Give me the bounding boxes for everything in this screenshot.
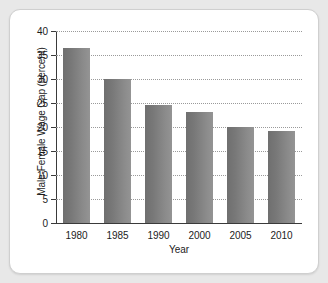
bar — [63, 48, 90, 223]
x-axis-line — [56, 223, 302, 224]
y-tick-label: 5 — [42, 194, 48, 205]
bar — [268, 131, 295, 223]
bar — [186, 112, 213, 223]
y-tick-label: 25 — [37, 98, 48, 109]
bar — [104, 79, 131, 223]
chart-figure: Male-Female Wage Gap (percent) 051015202… — [10, 10, 320, 275]
y-tick-label: 40 — [37, 26, 48, 37]
y-tick-label: 30 — [37, 74, 48, 85]
x-tick-label: 2005 — [218, 230, 264, 241]
x-tick-label: 2000 — [177, 230, 223, 241]
x-axis-title: Year — [56, 244, 302, 255]
x-tick-label: 1990 — [136, 230, 182, 241]
bar — [227, 127, 254, 223]
x-tick-label: 1980 — [54, 230, 100, 241]
y-tick-label: 20 — [37, 122, 48, 133]
y-tick-label: 10 — [37, 170, 48, 181]
y-tick-label: 35 — [37, 50, 48, 61]
chart-card: Male-Female Wage Gap (percent) 051015202… — [9, 9, 319, 274]
bar-series — [56, 31, 302, 223]
bar — [145, 105, 172, 223]
x-tick-label: 1985 — [95, 230, 141, 241]
plot-area: 0510152025303540 19801985199020002005201… — [56, 31, 302, 223]
y-tick-label: 0 — [42, 218, 48, 229]
y-tick-label: 15 — [37, 146, 48, 157]
y-tick-mark — [51, 223, 56, 224]
x-tick-label: 2010 — [259, 230, 305, 241]
